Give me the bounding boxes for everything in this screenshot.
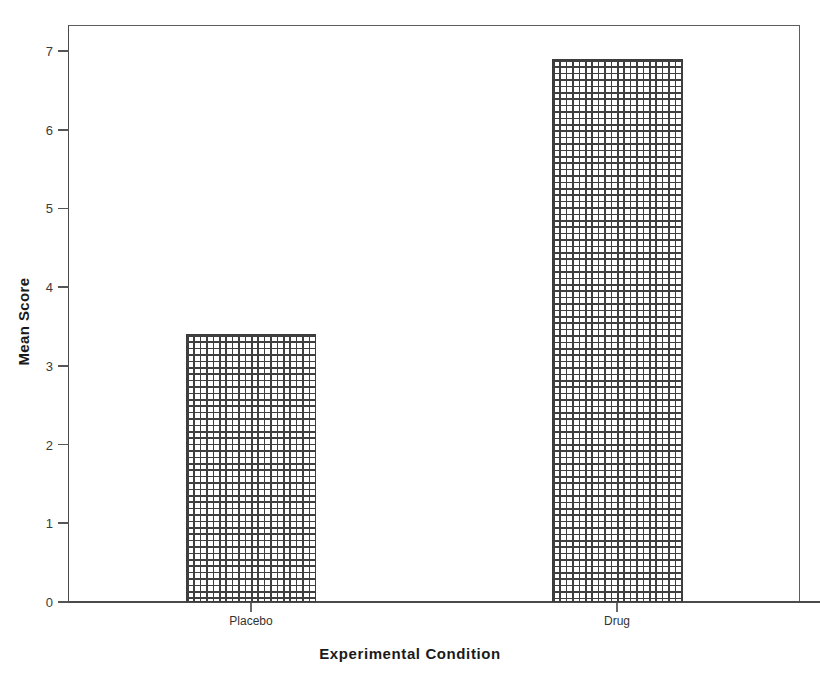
x-axis-tick-label: Drug [517, 614, 717, 628]
plot-frame [68, 25, 800, 602]
x-axis-tick [250, 603, 252, 612]
bar [552, 59, 683, 602]
y-axis-tick-label: 6 [5, 122, 53, 137]
y-axis-tick [58, 365, 69, 367]
y-axis-tick-label: 7 [5, 44, 53, 59]
y-axis-tick [58, 522, 69, 524]
x-axis-title: Experimental Condition [0, 645, 820, 662]
y-axis-tick-label: 4 [5, 280, 53, 295]
y-axis-tick [58, 50, 69, 52]
bar-chart: Mean Score 01234567 PlaceboDrug Experime… [0, 0, 820, 678]
y-axis-tick-label: 2 [5, 437, 53, 452]
y-axis-tick [58, 286, 69, 288]
y-axis-tick-label: 0 [5, 595, 53, 610]
x-axis-tick-label: Placebo [151, 614, 351, 628]
x-axis-tick [616, 603, 618, 612]
y-axis-tick-label: 5 [5, 201, 53, 216]
y-axis-tick-label: 3 [5, 358, 53, 373]
y-axis-tick [58, 208, 69, 210]
y-axis-tick [58, 129, 69, 131]
x-axis-line [68, 601, 820, 603]
y-axis-tick-label: 1 [5, 516, 53, 531]
y-axis-tick [58, 601, 69, 603]
y-axis-tick [58, 444, 69, 446]
y-axis-title: Mean Score [10, 0, 36, 678]
bar [186, 334, 316, 602]
